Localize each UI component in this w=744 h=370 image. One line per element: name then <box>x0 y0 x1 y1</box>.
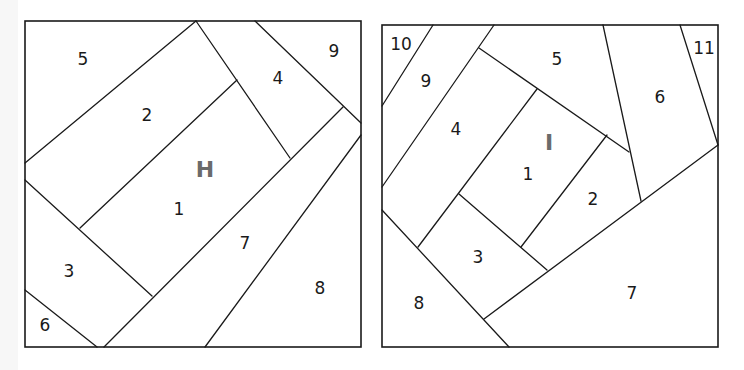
piece-number: 8 <box>414 293 425 313</box>
piece-number: 6 <box>655 87 666 107</box>
block-letter-i: I <box>545 130 553 155</box>
block-i-frame <box>382 25 718 347</box>
piece-number: 1 <box>523 164 534 184</box>
quilt-block-diagrams: H 1 2 3 4 5 6 7 8 9 I 1 2 3 4 5 6 7 8 9 … <box>0 0 744 370</box>
piece-number: 7 <box>627 283 638 303</box>
piece-number: 3 <box>473 247 484 267</box>
piece-number: 1 <box>174 199 185 219</box>
piece-number: 8 <box>315 278 326 298</box>
piece-number: 4 <box>273 68 284 88</box>
piece-number: 10 <box>390 34 412 54</box>
block-h: H 1 2 3 4 5 6 7 8 9 <box>25 21 361 347</box>
piece-number: 9 <box>329 41 340 61</box>
piece-number: 5 <box>78 49 89 69</box>
block-i: I 1 2 3 4 5 6 7 8 9 10 11 <box>382 25 718 347</box>
piece-number: 6 <box>40 315 51 335</box>
piece-number: 9 <box>421 71 432 91</box>
piece-number: 7 <box>240 233 251 253</box>
piece-number: 4 <box>451 119 462 139</box>
piece-number: 11 <box>693 38 715 58</box>
block-letter-h: H <box>196 157 214 182</box>
block-h-frame <box>25 21 361 347</box>
piece-number: 2 <box>588 189 599 209</box>
piece-number: 3 <box>64 261 75 281</box>
piece-number: 2 <box>142 105 153 125</box>
piece-number: 5 <box>552 49 563 69</box>
